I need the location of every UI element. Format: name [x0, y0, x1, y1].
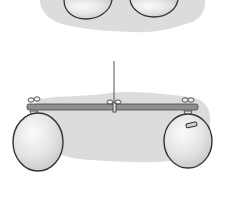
- bottom-panel: [13, 61, 212, 171]
- balloon-balance-diagram: [0, 0, 227, 201]
- left-balloon: [13, 113, 63, 171]
- stick: [27, 104, 198, 110]
- top-panel: [40, 0, 205, 32]
- right-balloon: [164, 114, 212, 168]
